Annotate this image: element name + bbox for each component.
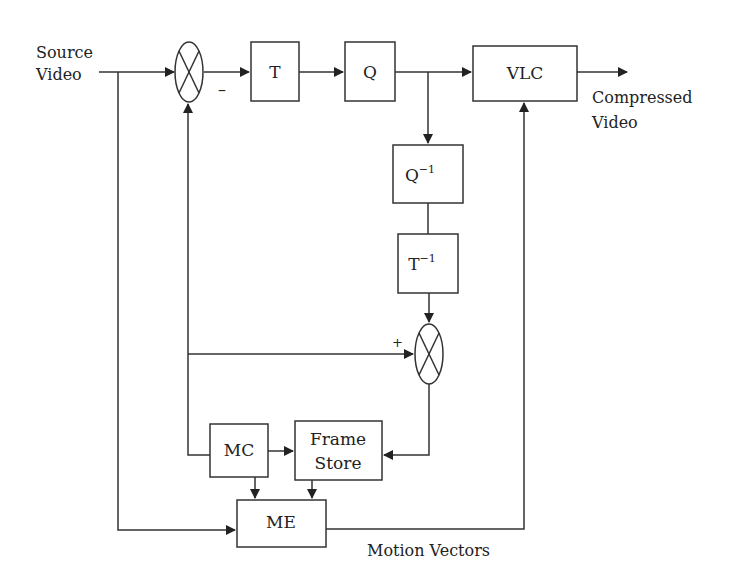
frame-store-label-2: Store [315, 453, 362, 473]
encoder-diagram: Source Video – T Q VLC Compressed Video … [0, 0, 740, 583]
mc-label: MC [224, 440, 254, 460]
compressed-video-label-2: Video [591, 113, 638, 132]
transform-label: T [269, 62, 281, 82]
minus-sign: – [218, 80, 226, 99]
me-label: ME [266, 512, 296, 532]
adder-junction [415, 324, 443, 384]
compressed-video-label: Compressed [592, 88, 693, 107]
plus-sign: + [392, 335, 403, 350]
source-video-label-2: Video [35, 65, 82, 84]
adder-to-framestore-arrow [384, 384, 429, 455]
motion-vectors-label: Motion Vectors [367, 541, 490, 560]
subtractor-junction [175, 42, 203, 102]
frame-store-label: Frame [310, 429, 366, 449]
quantizer-label: Q [363, 62, 377, 82]
vlc-label: VLC [506, 63, 544, 83]
mc-to-subtractor-arrow [188, 104, 210, 455]
source-video-label: Source [36, 43, 93, 62]
